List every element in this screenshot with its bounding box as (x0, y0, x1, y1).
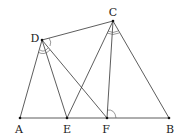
label-F: F (102, 123, 110, 136)
segment-DE (42, 40, 67, 118)
point-B (168, 117, 171, 120)
geometry-diagram: A E F B D C (0, 0, 183, 140)
angle-marks (38, 31, 119, 118)
segments (20, 21, 169, 118)
label-E: E (63, 123, 71, 136)
point-C (112, 20, 115, 23)
label-B: B (166, 123, 174, 136)
points (19, 20, 171, 120)
point-E (66, 117, 69, 120)
label-C: C (109, 6, 117, 19)
segment-DF (42, 40, 107, 118)
label-A: A (14, 123, 24, 136)
angle-mark-F (107, 110, 116, 118)
point-F (106, 117, 109, 120)
segment-CB (113, 21, 169, 118)
label-D: D (31, 32, 40, 45)
angle-mark-D-outer (38, 50, 50, 54)
point-A (19, 117, 22, 120)
angle-mark-C-inner (108, 31, 118, 33)
angle-mark-D-top (49, 38, 51, 46)
point-D (41, 39, 44, 42)
angle-mark-D-inner (40, 48, 48, 51)
segment-CF (107, 21, 113, 118)
angle-mark-C-outer (107, 33, 119, 35)
segment-DC (42, 21, 113, 40)
labels: A E F B D C (14, 6, 174, 136)
segment-AD (20, 40, 42, 118)
segment-CE (67, 21, 113, 118)
